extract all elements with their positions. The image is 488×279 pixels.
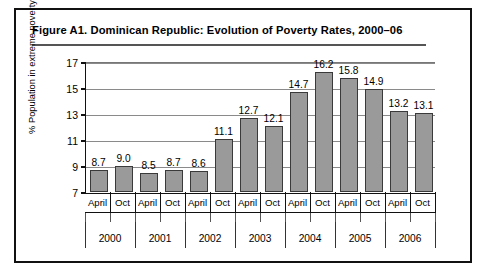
x-axis-tick [110,213,111,222]
period-separator [135,192,136,213]
x-axis-tick [360,213,361,222]
bar-value-label: 9.0 [116,153,130,164]
year-label-band: 2000200120022003200420052006 [85,222,435,248]
period-separator [335,192,336,213]
period-label: Oct [360,192,385,213]
bar [365,89,383,192]
gridline [86,115,435,116]
period-label-band: AprilOctAprilOctAprilOctAprilOctAprilOct… [85,192,435,213]
period-separator [185,192,186,213]
year-separator [335,222,336,248]
period-separator [385,192,386,213]
plot-region: 79111315178.79.08.58.78.611.112.712.114.… [85,62,435,192]
year-label: 2003 [235,230,285,246]
bar [140,173,158,193]
x-axis-tick [160,213,161,222]
chart-area: % Population in extreme poverty 79111315… [0,0,488,279]
x-axis-tick [435,213,436,222]
gridline [86,167,435,168]
period-separator [285,192,286,213]
period-label: Oct [310,192,335,213]
period-separator [110,192,111,213]
y-axis-tick [81,140,86,141]
x-axis-tick [410,213,411,222]
bar [165,170,183,192]
year-separator [435,222,436,248]
period-label: Oct [260,192,285,213]
bar [340,78,358,192]
period-label: April [385,192,410,213]
y-axis-tick [81,62,86,63]
year-separator [285,222,286,248]
x-axis-tick [235,213,236,222]
year-label: 2006 [385,230,435,246]
year-label: 2004 [285,230,335,246]
bar-value-label: 12.1 [264,113,284,124]
bar-value-label: 16.2 [314,59,334,70]
gridline [86,63,435,64]
bar-value-label: 8.7 [91,157,105,168]
bar [265,126,283,192]
period-label: April [185,192,210,213]
bar [240,118,258,192]
x-axis-tick [260,213,261,222]
y-axis-tick [81,114,86,115]
bar [315,72,333,192]
bar-value-label: 13.1 [414,100,434,111]
period-label: April [285,192,310,213]
period-label: Oct [160,192,185,213]
x-axis-tick [310,213,311,222]
x-axis-tick [385,213,386,222]
period-separator [235,192,236,213]
y-axis-tick [81,88,86,89]
bar-value-label: 14.9 [364,76,384,87]
period-separator [410,192,411,213]
year-label: 2002 [185,230,235,246]
y-axis-tick [81,166,86,167]
year-separator [135,222,136,248]
year-label: 2001 [135,230,185,246]
bar [415,113,433,192]
bar-value-label: 13.2 [389,98,409,109]
year-label: 2000 [85,230,135,246]
bar-value-label: 8.5 [141,160,155,171]
x-axis-tick [85,213,86,222]
bar-value-label: 11.1 [214,126,233,137]
period-label: April [335,192,360,213]
year-separator [235,222,236,248]
bar-value-label: 8.7 [166,157,180,168]
bar [290,92,308,192]
year-separator [385,222,386,248]
y-axis-tick-label: 15 [58,84,78,95]
period-label: April [85,192,110,213]
y-axis-tick-label: 9 [58,162,78,173]
period-separator [210,192,211,213]
x-axis-tick [285,213,286,222]
bar [90,170,108,192]
gridline [86,141,435,142]
period-separator [260,192,261,213]
x-axis-tick [335,213,336,222]
bar [190,171,208,192]
x-axis-tick [210,213,211,222]
y-axis-tick-label: 13 [58,110,78,121]
bar-value-label: 15.8 [339,65,359,76]
bar [215,139,233,192]
bar-value-label: 8.6 [191,158,205,169]
year-separator [85,222,86,248]
x-axis-tick [135,213,136,222]
year-separator [185,222,186,248]
y-axis-tick-label: 17 [58,58,78,69]
period-separator [435,192,436,213]
gridline [86,89,435,90]
period-separator [310,192,311,213]
period-label: Oct [210,192,235,213]
bar-value-label: 14.7 [289,79,309,90]
bar [390,111,408,192]
period-separator [160,192,161,213]
period-label: Oct [410,192,435,213]
y-axis-tick-label: 7 [58,188,78,199]
bar-value-label: 12.7 [239,105,259,116]
period-label: Oct [110,192,135,213]
period-label: April [235,192,260,213]
